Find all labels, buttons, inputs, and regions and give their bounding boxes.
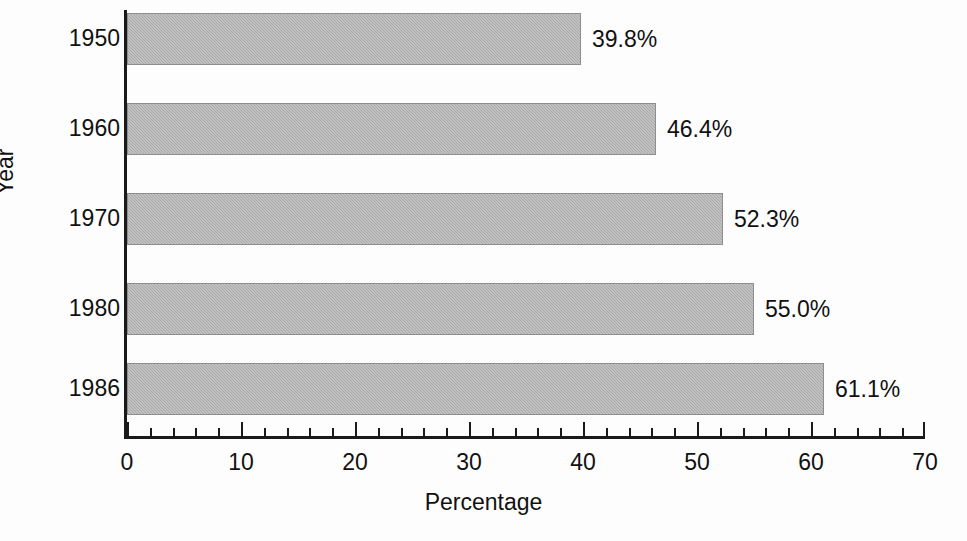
x-tick-label: 60: [798, 449, 824, 476]
x-tick-major: [811, 422, 813, 437]
bar-value-label: 52.3%: [734, 206, 799, 233]
x-tick-major: [469, 422, 471, 437]
y-axis-title: Year: [0, 149, 19, 195]
bar: [127, 103, 656, 155]
x-tick-minor: [743, 428, 745, 437]
x-tick-minor: [720, 428, 722, 437]
x-tick-minor: [674, 428, 676, 437]
x-tick-minor: [537, 428, 539, 437]
y-tick-label: 1950: [69, 25, 120, 52]
x-tick-minor: [378, 428, 380, 437]
x-tick-label: 70: [912, 449, 938, 476]
x-tick-minor: [264, 428, 266, 437]
x-tick-label: 30: [456, 449, 482, 476]
y-tick-label: 1986: [69, 375, 120, 402]
x-tick-major: [583, 422, 585, 437]
x-tick-minor: [195, 428, 197, 437]
x-tick-label: 20: [342, 449, 368, 476]
x-tick-minor: [606, 428, 608, 437]
x-tick-label: 10: [228, 449, 254, 476]
y-tick-label: 1960: [69, 115, 120, 142]
x-tick-minor: [173, 428, 175, 437]
y-tick-label: 1970: [69, 205, 120, 232]
bar: [127, 283, 754, 335]
x-tick-minor: [857, 428, 859, 437]
x-tick-minor: [287, 428, 289, 437]
bar: [127, 193, 723, 245]
bar-value-label: 39.8%: [592, 26, 657, 53]
bar-value-label: 55.0%: [765, 296, 830, 323]
x-tick-minor: [515, 428, 517, 437]
x-tick-minor: [902, 428, 904, 437]
bar: [127, 363, 824, 415]
x-tick-minor: [446, 428, 448, 437]
x-tick-minor: [651, 428, 653, 437]
x-tick-minor: [879, 428, 881, 437]
x-tick-minor: [401, 428, 403, 437]
x-tick-major: [241, 422, 243, 437]
x-tick-label: 0: [121, 449, 134, 476]
x-axis-ticks: [127, 415, 925, 437]
x-tick-minor: [423, 428, 425, 437]
x-tick-label: 50: [684, 449, 710, 476]
bar-value-label: 46.4%: [667, 116, 732, 143]
y-axis-line: [124, 10, 127, 439]
x-tick-minor: [765, 428, 767, 437]
bar: [127, 13, 581, 65]
x-tick-minor: [834, 428, 836, 437]
x-tick-minor: [332, 428, 334, 437]
x-tick-major: [127, 422, 129, 437]
x-tick-label: 40: [570, 449, 596, 476]
x-tick-minor: [560, 428, 562, 437]
x-tick-minor: [788, 428, 790, 437]
x-tick-minor: [150, 428, 152, 437]
x-axis-title: Percentage: [0, 489, 967, 516]
x-tick-minor: [218, 428, 220, 437]
x-tick-major: [355, 422, 357, 437]
x-tick-minor: [309, 428, 311, 437]
bar-chart: Year 1950 1960 1970 1980 1986 39.8% 46.4…: [0, 0, 967, 541]
y-tick-label: 1980: [69, 295, 120, 322]
x-tick-minor: [629, 428, 631, 437]
x-tick-minor: [492, 428, 494, 437]
x-tick-major: [923, 422, 925, 437]
bar-value-label: 61.1%: [835, 376, 900, 403]
x-tick-major: [697, 422, 699, 437]
